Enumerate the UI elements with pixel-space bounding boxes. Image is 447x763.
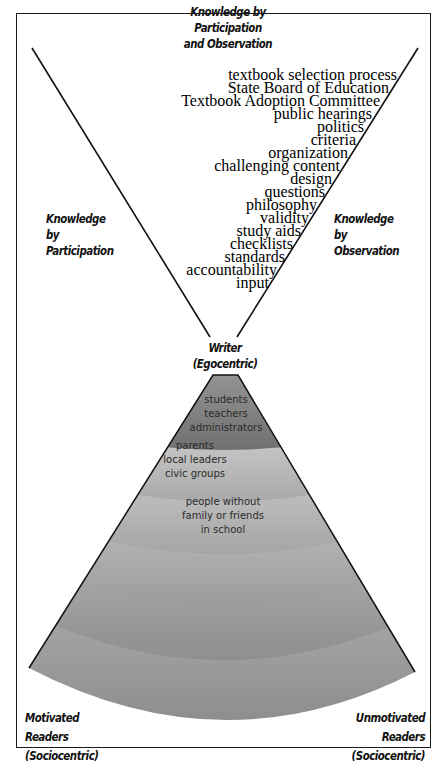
band-1-line: students [166,393,286,407]
title-line-2: and Observation [162,36,293,52]
band-2-line: civic groups [140,467,250,481]
participation-line-2: Participation [46,243,120,259]
band-2-line: local leaders [140,453,250,467]
participation-label: Knowledge by Participation [46,211,120,259]
band-1-line: administrators [166,421,286,435]
observation-item: input [236,274,269,292]
observation-line-2: Observation [334,243,408,259]
diagram-title: Knowledge by Participation and Observati… [162,4,293,52]
motivated-readers-label: Motivated Readers (Sociocentric) [25,708,123,763]
observation-line-1: Knowledge by [334,211,408,243]
band-3-text: people without family or friends in scho… [163,495,283,537]
band-3-line: in school [163,523,283,537]
band-1-line: teachers [166,407,286,421]
writer-line-1: Writer [184,340,266,356]
unmotivated-line-1: Unmotivated Readers [310,708,425,746]
band-3-line: family or friends [163,509,283,523]
title-line-1: Knowledge by Participation [162,4,293,36]
motivated-line-1: Motivated Readers [25,708,123,746]
observation-label: Knowledge by Observation [334,211,408,259]
unmotivated-readers-label: Unmotivated Readers (Sociocentric) [310,708,425,763]
writer-line-2: (Egocentric) [184,356,266,372]
writer-label: Writer (Egocentric) [184,340,266,372]
band-2-text: parents local leaders civic groups [140,439,250,481]
band-1-text: students teachers administrators [166,393,286,435]
band-2-line: parents [140,439,250,453]
motivated-line-2: (Sociocentric) [25,746,123,763]
unmotivated-line-2: (Sociocentric) [310,746,425,763]
band-3-line: people without [163,495,283,509]
audience-cone-diagram [0,0,447,763]
participation-line-1: Knowledge by [46,211,120,243]
